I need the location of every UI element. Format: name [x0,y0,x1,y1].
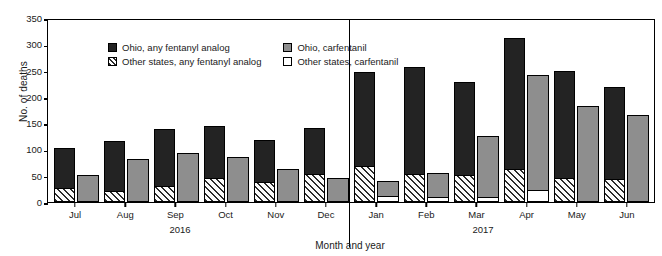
x-axis-tick-label: Apr [502,209,552,220]
x-axis-tick-mark [175,203,176,207]
segment-ohio-carfentanil [428,174,447,198]
segment-other-states-any-fentanyl-analog [255,182,274,201]
bar-any-fentanyl-analog[interactable] [254,140,275,202]
x-axis-tick-label: Aug [100,209,150,220]
month-bar-group [401,20,451,202]
segment-ohio-any-fentanyl-analog [255,141,274,182]
legend-item-ohio-carfentanil: Ohio, carfentanil [283,42,398,53]
bar-any-fentanyl-analog[interactable] [304,128,325,202]
segment-other-states-any-fentanyl-analog [405,174,424,201]
x-axis-tick-label: Sep [150,209,200,220]
x-axis-tick-mark [426,203,427,207]
y-axis-tick-label: 100 [26,144,42,155]
x-axis-tick: Apr [502,203,552,225]
bar-carfentanil[interactable] [427,173,448,202]
legend-label-other-analog: Other states, any fentanyl analog [122,56,261,67]
segment-ohio-any-fentanyl-analog [505,39,524,169]
bar-carfentanil[interactable] [527,75,548,202]
legend-label-ohio-carfentanil: Ohio, carfentanil [297,42,366,53]
segment-ohio-any-fentanyl-analog [55,149,74,188]
x-axis-tick-label: Jan [351,209,401,220]
segment-ohio-carfentanil [128,160,147,201]
x-axis-tick-label: Dec [301,209,351,220]
x-axis-title: Month and year [284,240,416,251]
segment-ohio-any-fentanyl-analog [105,142,124,191]
segment-other-states-any-fentanyl-analog [355,166,374,201]
x-axis-tick: Dec [301,203,351,225]
x-axis-tick: Feb [401,203,451,225]
bar-carfentanil[interactable] [577,106,598,202]
bar-any-fentanyl-analog[interactable] [504,38,525,202]
bar-carfentanil[interactable] [177,153,198,202]
bar-carfentanil[interactable] [477,136,498,202]
bar-any-fentanyl-analog[interactable] [604,87,625,202]
x-axis-tick-mark [476,203,477,207]
month-bar-group [451,20,501,202]
x-axis-tick-mark [526,203,527,207]
segment-ohio-carfentanil [378,182,397,196]
month-bar-group [601,20,651,202]
x-axis-tick-label: Feb [401,209,451,220]
segment-ohio-carfentanil [478,137,497,197]
bar-any-fentanyl-analog[interactable] [54,148,75,202]
x-axis-tick: Jul [50,203,100,225]
legend-item-ohio-any-fentanyl-analog: Ohio, any fentanyl analog [108,42,261,53]
segment-ohio-any-fentanyl-analog [305,129,324,174]
x-axis-tick: Sep [150,203,200,225]
legend-label-ohio-analog: Ohio, any fentanyl analog [122,42,230,53]
segment-other-states-any-fentanyl-analog [555,178,574,201]
chart-legend: Ohio, any fentanyl analog Ohio, carfenta… [108,42,398,67]
legend-swatch-other-carfentanil-icon [283,57,292,66]
bar-carfentanil[interactable] [327,178,348,202]
x-axis-tick: Nov [251,203,301,225]
segment-other-states-carfentanil [478,197,497,201]
x-axis-tick: Jun [602,203,652,225]
month-bar-group [501,20,551,202]
bar-carfentanil[interactable] [77,175,98,202]
segment-ohio-any-fentanyl-analog [205,127,224,178]
bar-any-fentanyl-analog[interactable] [554,71,575,202]
x-axis-tick-label: Mar [451,209,501,220]
plot-frame: 050100150200250300350 Ohio, any fentanyl… [47,19,655,203]
bar-any-fentanyl-analog[interactable] [454,82,475,202]
x-axis-tick: Oct [201,203,251,225]
x-axis-tick-label: Oct [201,209,251,220]
bar-any-fentanyl-analog[interactable] [354,72,375,202]
segment-ohio-any-fentanyl-analog [355,73,374,166]
segment-ohio-carfentanil [628,116,647,201]
bar-carfentanil[interactable] [227,157,248,202]
bar-any-fentanyl-analog[interactable] [404,67,425,202]
segment-other-states-any-fentanyl-analog [205,178,224,201]
segment-other-states-carfentanil [428,197,447,201]
segment-other-states-any-fentanyl-analog [605,179,624,201]
x-axis-tick: Jan [351,203,401,225]
bar-any-fentanyl-analog[interactable] [154,129,175,202]
y-axis-tick-label: 300 [26,39,42,50]
bar-carfentanil[interactable] [127,159,148,202]
bar-carfentanil[interactable] [277,169,298,202]
x-axis-tick-mark [275,203,276,207]
segment-other-states-carfentanil [528,190,547,201]
bar-carfentanil[interactable] [627,115,648,202]
x-axis-tick-mark [325,203,326,207]
segment-ohio-any-fentanyl-analog [155,130,174,186]
legend-item-other-states-any-fentanyl-analog: Other states, any fentanyl analog [108,56,261,67]
bar-any-fentanyl-analog[interactable] [104,141,125,203]
y-axis-tick-label: 0 [37,197,42,208]
segment-ohio-carfentanil [528,76,547,189]
x-axis-tick: Mar [451,203,501,225]
bar-carfentanil[interactable] [377,181,398,202]
x-axis-tick-label: Jul [50,209,100,220]
segment-other-states-any-fentanyl-analog [105,191,124,201]
bar-any-fentanyl-analog[interactable] [204,126,225,202]
segment-other-states-any-fentanyl-analog [155,186,174,201]
y-axis-tick-label: 350 [26,13,42,24]
x-axis-tick: Aug [100,203,150,225]
y-axis-tick-label: 250 [26,66,42,77]
legend-swatch-ohio-analog-icon [108,43,117,52]
segment-ohio-any-fentanyl-analog [405,68,424,174]
x-axis-tick-label: May [552,209,602,220]
x-axis-tick-label: Nov [251,209,301,220]
legend-item-other-states-carfentanil: Other states, carfentanil [283,56,398,67]
x-axis-tick-mark [225,203,226,207]
